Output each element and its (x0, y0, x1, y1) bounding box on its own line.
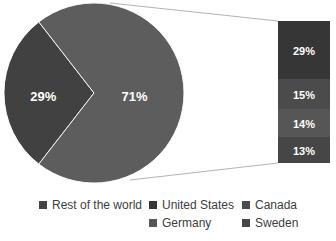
connector-line-bottom (130, 163, 278, 180)
breakdown-bar: 29%15%14%13% (278, 21, 330, 163)
legend-swatch-canada (242, 201, 250, 209)
bar-segment-label: 15% (293, 89, 315, 101)
bar-segment-label: 13% (293, 145, 315, 157)
legend-label-united-states: United States (162, 199, 234, 211)
legend-item-united-states: United States (149, 199, 234, 211)
legend-swatch-rest-of-the-world (39, 201, 47, 209)
pie-slice-label: 71% (121, 89, 147, 104)
legend-swatch-germany (149, 219, 157, 227)
legend-label-canada: Canada (255, 199, 297, 211)
bar-segment-label: 14% (293, 118, 315, 130)
bar-of-pie-chart: 29%71% 29%15%14%13% Rest of the world Un… (0, 0, 336, 241)
legend-item-rest-of-the-world: Rest of the world (39, 199, 142, 211)
legend-item-sweden: Sweden (242, 217, 298, 229)
legend-item-canada: Canada (242, 199, 297, 211)
pie-slice-label: 29% (30, 89, 56, 104)
legend-swatch-sweden (242, 219, 250, 227)
legend-swatch-united-states (149, 201, 157, 209)
legend-item-germany: Germany (149, 217, 211, 229)
legend-label-germany: Germany (162, 217, 211, 229)
bar-segment-label: 29% (293, 45, 315, 57)
pie: 29%71% (4, 3, 184, 183)
legend-label-rest-of-the-world: Rest of the world (52, 199, 142, 211)
legend-label-sweden: Sweden (255, 217, 298, 229)
